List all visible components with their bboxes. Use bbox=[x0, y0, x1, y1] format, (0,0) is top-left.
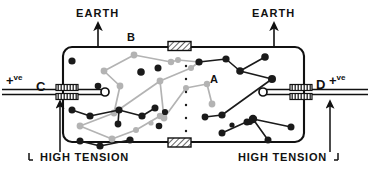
high-tension-lead-right bbox=[330, 104, 338, 160]
figure-canvas: EARTH EARTH HIGH TENSION HIGH TENSION B … bbox=[0, 0, 370, 179]
ve-superscript-right: ve bbox=[337, 73, 346, 82]
high-tension-label-right: HIGH TENSION bbox=[238, 152, 327, 163]
ve-superscript-left: ve bbox=[14, 73, 23, 82]
plus-sign-right: + bbox=[329, 73, 337, 88]
track-label-b: B bbox=[127, 32, 135, 43]
electrode-label-d: D bbox=[316, 78, 325, 91]
track-label-a: A bbox=[210, 74, 218, 85]
bottom-insulator-block bbox=[168, 138, 191, 147]
polarity-label-right: +ve bbox=[329, 74, 346, 87]
polarity-label-left: +ve bbox=[6, 74, 23, 87]
top-insulator-block bbox=[168, 42, 191, 51]
electrode-label-c: C bbox=[36, 80, 45, 93]
earth-label-right: EARTH bbox=[252, 8, 295, 19]
high-tension-label-left: HIGH TENSION bbox=[40, 152, 129, 163]
plus-sign-left: + bbox=[6, 73, 14, 88]
earth-label-left: EARTH bbox=[76, 8, 119, 19]
